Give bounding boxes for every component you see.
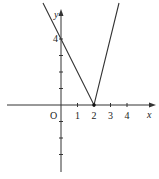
y-axis-label: y	[53, 9, 59, 20]
x-axis-arrow-icon	[149, 103, 156, 108]
vertex-point	[92, 103, 96, 107]
y-tick-label-4: 4	[53, 33, 58, 44]
y-axis-arrow-icon	[59, 9, 64, 16]
x-tick-label-2: 2	[92, 110, 97, 121]
x-tick-label-4: 4	[125, 110, 130, 121]
x-tick-label-1: 1	[75, 110, 80, 121]
x-tick-label-3: 3	[108, 110, 113, 121]
x-axis-label: x	[146, 109, 152, 120]
function-graph: O 1 2 3 4 x y 4	[0, 0, 159, 179]
origin-label: O	[50, 110, 57, 121]
